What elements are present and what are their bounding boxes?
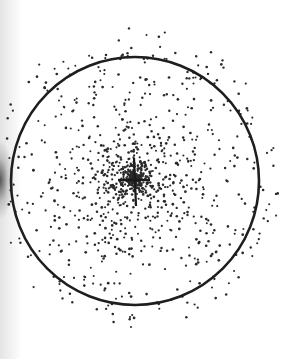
scatter-dots xyxy=(6,27,279,328)
dot-density-diagram xyxy=(0,0,299,359)
figure-canvas: Radial dot-density distribution with bou… xyxy=(0,0,299,359)
